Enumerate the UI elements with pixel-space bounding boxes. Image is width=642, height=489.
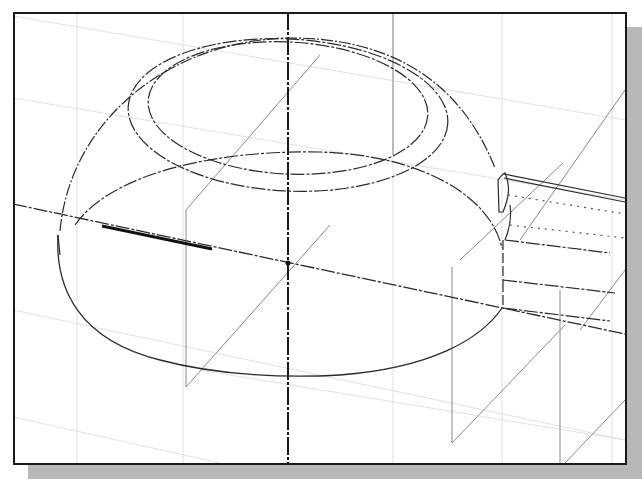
wireframe-drawing [13,12,627,465]
dome-outer-profile [60,38,495,231]
origin-point [286,261,291,266]
cad-viewport[interactable] [13,12,627,465]
construction-lines [186,12,625,463]
highlighted-edge [102,226,212,249]
horizontal-axis [13,204,625,334]
handle-extrusion [498,173,625,321]
base-ellipse-bottom [58,235,502,376]
